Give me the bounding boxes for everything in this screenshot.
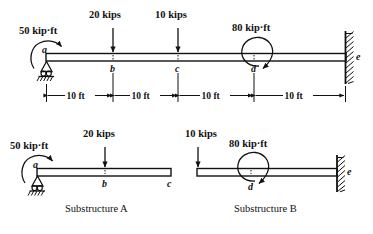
substructure-b-node-label-d: d	[248, 181, 254, 192]
node-label-a: a	[42, 44, 47, 55]
node-label-c: c	[175, 63, 180, 74]
moment-50-label: 50 kip·ft	[19, 25, 58, 36]
substructure-a-node-label-b: b	[102, 178, 107, 189]
substructure-a-group: 50 kip·ft 20 kips a b c Substructure A	[10, 128, 172, 214]
node-label-e: e	[356, 51, 361, 62]
substructure-b-load-10-label: 10 kips	[185, 128, 217, 139]
dimension-label-4: 10 ft	[285, 91, 304, 101]
load-20-label: 20 kips	[89, 9, 121, 20]
node-label-b: b	[110, 63, 115, 74]
figure-canvas: 50 kip·ft 20 kips 10 kips 80 kip·ft a b	[0, 0, 373, 234]
substructure-a-node-label-c: c	[167, 178, 172, 189]
substructure-b-node-label-e: e	[347, 166, 352, 177]
load-10-label: 10 kips	[155, 9, 187, 20]
dimension-label-2: 10 ft	[132, 91, 151, 101]
dimension-label-1: 10 ft	[67, 91, 86, 101]
moment-80-label: 80 kip·ft	[232, 22, 271, 33]
substructure-a-pin-roller-support	[28, 176, 45, 196]
dimension-label-3: 10 ft	[202, 91, 221, 101]
node-label-d: d	[251, 63, 257, 74]
main-beam-member	[46, 54, 346, 62]
substructure-b-caption: Substructure B	[234, 203, 297, 214]
main-beam-group: 50 kip·ft 20 kips 10 kips 80 kip·ft a b	[19, 9, 361, 102]
substructure-b-group: 10 kips 80 kip·ft d e Substructure B	[185, 128, 352, 214]
fixed-support-e	[346, 31, 354, 84]
substructure-a-load-20-label: 20 kips	[83, 128, 115, 139]
substructure-a-member	[37, 169, 171, 177]
structural-analysis-figure: 50 kip·ft 20 kips 10 kips 80 kip·ft a b	[0, 0, 373, 234]
substructure-a-node-label-a: a	[33, 159, 38, 170]
substructure-a-moment-50-label: 50 kip·ft	[10, 140, 49, 151]
substructure-b-fixed-support-e	[337, 155, 345, 192]
substructure-a-caption: Substructure A	[65, 203, 128, 214]
substructure-b-moment-80-label: 80 kip·ft	[229, 138, 268, 149]
pin-roller-support-a	[37, 62, 54, 82]
